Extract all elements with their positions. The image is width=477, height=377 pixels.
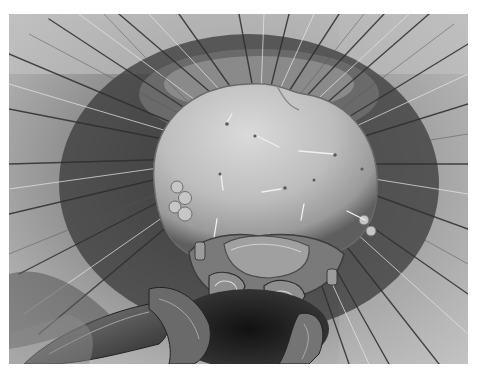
caterpillar-head-image xyxy=(9,14,468,364)
sem-micrograph xyxy=(9,14,468,364)
